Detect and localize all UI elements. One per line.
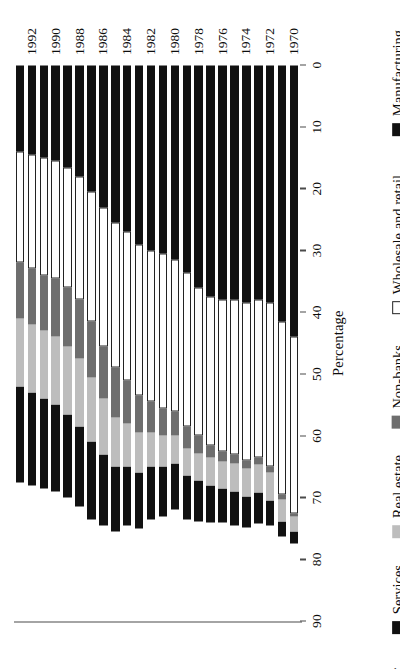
bar-segment-non-banks	[230, 454, 239, 463]
bar-segment-non-banks	[254, 457, 263, 464]
legend-label: Real estate	[390, 455, 400, 518]
bar-segment-non-banks	[135, 395, 144, 432]
bar-segment-manufacturing	[99, 65, 108, 207]
bar-segment-services	[16, 386, 25, 482]
bar-segment-wholesale-and-retail	[135, 244, 144, 395]
bar-segment-real-estate	[135, 432, 144, 472]
bar-segment-services	[99, 454, 108, 525]
bar-segment-non-banks	[242, 460, 251, 468]
bar-segment-real-estate	[278, 499, 287, 521]
legend-item-services[interactable]: Services	[390, 565, 400, 634]
legend-item-real-estate[interactable]: Real estate	[390, 455, 400, 538]
bar-stack	[28, 65, 37, 485]
bar-stack	[230, 65, 239, 525]
bar-stack	[75, 65, 84, 507]
bar-segment-non-banks	[147, 401, 156, 432]
bar-segment-real-estate	[290, 516, 299, 531]
bar-stack	[242, 65, 251, 527]
bar-stack	[40, 65, 49, 488]
bar-segment-services	[183, 475, 192, 518]
bar-segment-real-estate	[254, 464, 263, 492]
bar-segment-wholesale-and-retail	[254, 299, 263, 457]
bar-segment-wholesale-and-retail	[75, 176, 84, 300]
bar-segment-wholesale-and-retail	[159, 253, 168, 407]
bar-segment-real-estate	[40, 330, 49, 398]
bar-segment-manufacturing	[230, 65, 239, 300]
value-axis-tick	[300, 373, 306, 374]
legend-swatch-nonbanks	[392, 416, 400, 429]
bar-segment-non-banks	[218, 451, 227, 461]
bar-stack	[183, 65, 192, 519]
bar-segment-real-estate	[194, 453, 203, 481]
category-label-1970: 1970	[286, 28, 302, 55]
bar-segment-manufacturing	[63, 65, 72, 167]
bar-segment-manufacturing	[290, 65, 299, 337]
bar-segment-services	[206, 485, 215, 522]
bar-segment-non-banks	[28, 269, 37, 325]
bar-segment-non-banks	[51, 278, 60, 337]
legend-item-nonbanks[interactable]: Non-banks	[390, 345, 400, 429]
bar-segment-services	[254, 492, 263, 523]
bar-segment-services	[159, 466, 168, 515]
bar-segment-services	[87, 441, 96, 518]
value-axis-tick-label: 0	[309, 46, 325, 84]
bar-segment-wholesale-and-retail	[242, 303, 251, 461]
bar-segment-real-estate	[99, 398, 108, 454]
value-axis-tick-label: 10	[309, 107, 325, 145]
bar-segment-wholesale-and-retail	[99, 207, 108, 346]
bar-stack	[171, 65, 180, 510]
bar-stack	[159, 65, 168, 516]
legend-swatch-manufacturing	[392, 123, 400, 136]
legend-swatch-services	[392, 621, 400, 634]
bar-segment-non-banks	[87, 321, 96, 377]
value-axis-tick	[300, 126, 306, 127]
value-axis-tick	[300, 435, 306, 436]
bar-segment-wholesale-and-retail	[111, 222, 120, 367]
bar-segment-services	[242, 496, 251, 527]
category-label-1980: 1980	[167, 28, 183, 55]
bar-stack	[290, 65, 299, 544]
value-axis-tick-label: 90	[309, 602, 325, 640]
bar-segment-real-estate	[111, 417, 120, 466]
legend-label: Non-banks	[390, 345, 400, 409]
bar-segment-non-banks	[111, 367, 120, 416]
bar-segment-services	[51, 404, 60, 490]
value-axis-tick-label: 50	[309, 355, 325, 393]
value-axis-tick	[300, 558, 306, 559]
legend-item-wholesale[interactable]: Wholesale and retail	[390, 175, 400, 314]
value-axis-tick-label: 70	[309, 478, 325, 516]
bar-segment-services	[75, 426, 84, 506]
bar-stack	[218, 65, 227, 523]
legend-label: Manufacturing	[390, 30, 400, 116]
bar-segment-real-estate	[28, 324, 37, 392]
legend-label: Services	[390, 565, 400, 614]
bar-segment-non-banks	[194, 435, 203, 452]
bar-segment-services	[194, 480, 203, 520]
bar-segment-wholesale-and-retail	[230, 299, 239, 453]
value-axis-tick	[300, 620, 306, 621]
bar-segment-wholesale-and-retail	[28, 154, 37, 268]
bar-segment-manufacturing	[183, 65, 192, 272]
bar-segment-services	[230, 491, 239, 525]
bar-segment-non-banks	[171, 411, 180, 436]
bar-segment-wholesale-and-retail	[206, 296, 215, 444]
bar-segment-real-estate	[16, 318, 25, 386]
bar-series-group	[14, 65, 300, 621]
category-label-1982: 1982	[143, 28, 159, 55]
bar-segment-manufacturing	[266, 65, 275, 303]
bar-segment-non-banks	[206, 445, 215, 457]
bar-segment-non-banks	[99, 346, 108, 399]
bar-stack	[135, 65, 144, 528]
bar-segment-manufacturing	[218, 65, 227, 300]
bar-segment-real-estate	[75, 358, 84, 426]
category-label-1992: 1992	[24, 28, 40, 55]
bar-segment-non-banks	[16, 262, 25, 318]
legend-item-manufacturing[interactable]: Manufacturing	[390, 30, 400, 136]
bar-stack	[194, 65, 203, 521]
value-axis-tick	[300, 187, 306, 188]
bar-segment-non-banks	[123, 380, 132, 423]
bar-segment-wholesale-and-retail	[266, 302, 275, 466]
bar-segment-real-estate	[159, 435, 168, 466]
bar-segment-services	[123, 466, 132, 525]
bar-stack	[206, 65, 215, 522]
